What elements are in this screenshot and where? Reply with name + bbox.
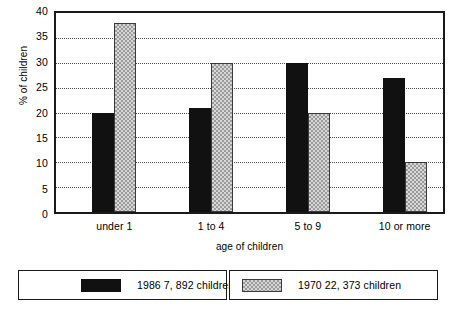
y-axis-tick: 0 — [16, 209, 48, 219]
y-axis-tick: 35 — [16, 31, 48, 41]
y-axis-tick: 40 — [16, 6, 48, 16]
bar — [189, 108, 211, 212]
y-axis-tick-labels: 0510152025303540 — [16, 11, 48, 214]
y-axis-tick: 30 — [16, 57, 48, 67]
legend-label-1970: 1970 22, 373 children — [298, 279, 401, 292]
y-axis-tick: 25 — [16, 82, 48, 92]
y-axis-tick: 15 — [16, 133, 48, 143]
legend-label-1986: 1986 7, 892 children — [137, 279, 234, 292]
y-axis-tick: 20 — [16, 108, 48, 118]
legend-item-1986: 1986 7, 892 children — [18, 270, 227, 300]
bar-chart-figure: % of children 0510152025303540 under 11 … — [0, 0, 456, 313]
x-axis-tick-labels: under 11 to 45 to 910 or more — [54, 220, 445, 236]
y-axis-tick: 10 — [16, 158, 48, 168]
bar — [286, 63, 308, 212]
legend-item-1970: 1970 22, 373 children — [229, 270, 438, 300]
x-axis-tick: 1 to 4 — [198, 220, 225, 232]
bar — [308, 113, 330, 213]
legend-swatch-1986 — [81, 279, 121, 292]
bar — [92, 113, 114, 213]
y-axis-tick: 5 — [16, 184, 48, 194]
bar — [383, 78, 405, 212]
bar — [114, 23, 136, 212]
x-axis-tick: 5 to 9 — [294, 220, 321, 232]
bar — [405, 162, 427, 212]
legend-swatch-1970 — [242, 279, 282, 292]
plot-area — [54, 11, 445, 214]
x-axis-tick: under 1 — [96, 220, 132, 232]
plot-inner — [56, 13, 443, 212]
x-axis-tick: 10 or more — [379, 220, 431, 232]
bar — [211, 63, 233, 212]
x-axis-title: age of children — [54, 241, 445, 252]
